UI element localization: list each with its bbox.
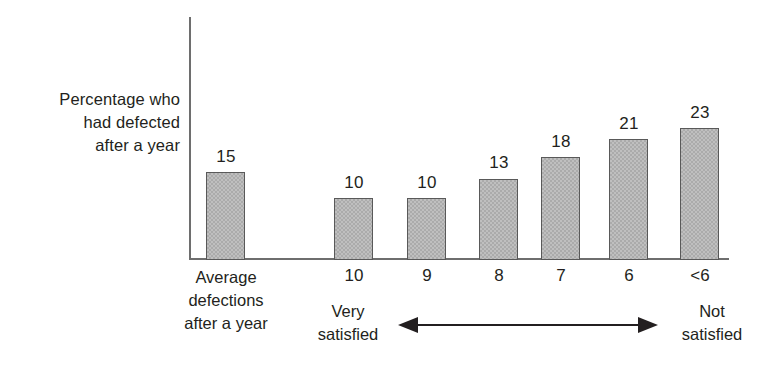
x-tick-label-10: 10 <box>314 266 394 285</box>
bar-value-label: 10 <box>314 174 394 191</box>
x-axis-group-label-line-2: defections <box>166 289 286 312</box>
bar-value-label: 15 <box>186 148 266 165</box>
bar-under-6 <box>680 128 719 260</box>
bar-value-label: 10 <box>387 174 467 191</box>
x-tick-label-9: 9 <box>387 266 467 285</box>
annotation-very-satisfied-line-1: Very <box>296 300 400 323</box>
annotation-not-satisfied-line-2: satisfied <box>660 323 764 346</box>
bar-7 <box>541 157 580 260</box>
annotation-very-satisfied-line-2: satisfied <box>296 323 400 346</box>
x-axis-group-label-line-1: Average <box>166 266 286 289</box>
bar-10 <box>334 198 373 260</box>
x-axis-group-label-average-defections: Average defections after a year <box>166 266 286 335</box>
x-axis-group-label-line-3: after a year <box>166 312 286 335</box>
annotation-not-satisfied-line-1: Not <box>660 300 764 323</box>
x-tick-label-under-6: <6 <box>660 266 740 285</box>
bar-chart: Percentage who had defected after a year… <box>0 0 768 388</box>
x-axis-line <box>189 258 729 260</box>
y-axis-line <box>189 17 191 260</box>
bar-9 <box>407 198 446 260</box>
bar-value-label: 21 <box>589 115 669 132</box>
bar-value-label: 23 <box>660 104 740 121</box>
bar-value-label: 18 <box>521 133 601 150</box>
y-axis-title-line-2: had defected <box>8 111 180 134</box>
annotation-very-satisfied: Very satisfied <box>296 300 400 346</box>
bar-value-label: 13 <box>459 154 539 171</box>
bar-average-defections <box>206 172 245 260</box>
bar-6 <box>609 139 648 260</box>
x-tick-label-6: 6 <box>589 266 669 285</box>
y-axis-title: Percentage who had defected after a year <box>8 88 180 157</box>
bar-8 <box>479 179 518 260</box>
double-arrow-icon <box>398 312 658 338</box>
annotation-not-satisfied: Not satisfied <box>660 300 764 346</box>
y-axis-title-line-3: after a year <box>8 134 180 157</box>
y-axis-title-line-1: Percentage who <box>8 88 180 111</box>
